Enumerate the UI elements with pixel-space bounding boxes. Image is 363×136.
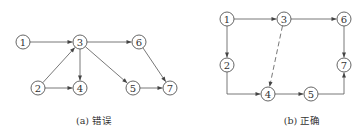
node-label: 1: [224, 14, 230, 25]
node-label: 4: [265, 89, 271, 100]
node-4: 4: [73, 81, 87, 95]
node-label: 7: [167, 83, 173, 94]
node-label: 4: [77, 83, 83, 94]
node-5: 5: [304, 87, 318, 101]
edge-3-to-4-dummy: [270, 26, 283, 87]
caption-wrong: (a) 错误: [76, 115, 112, 126]
caption-correct: (b) 正确: [284, 115, 321, 126]
node-6: 6: [337, 12, 351, 26]
node-2: 2: [220, 58, 234, 72]
node-label: 3: [281, 14, 287, 25]
edge-2-to-4: [227, 72, 261, 94]
node-7: 7: [163, 81, 177, 95]
node-3: 3: [73, 35, 87, 49]
node-1: 1: [220, 12, 234, 26]
node-4: 4: [261, 87, 275, 101]
node-label: 5: [308, 89, 314, 100]
network-diagrams: 1234567 (a) 错误 1234567 (b) 正确: [0, 0, 363, 136]
node-label: 5: [130, 83, 136, 94]
edge-2-to-3: [43, 48, 75, 83]
node-1: 1: [16, 35, 30, 49]
node-2: 2: [31, 81, 45, 95]
diagram-correct: 1234567 (b) 正确: [220, 12, 351, 126]
diagram-wrong: 1234567 (a) 错误: [16, 35, 177, 126]
node-6: 6: [132, 35, 146, 49]
node-label: 6: [341, 14, 347, 25]
node-label: 2: [224, 60, 230, 71]
node-label: 3: [77, 37, 83, 48]
node-label: 1: [20, 37, 26, 48]
node-3: 3: [277, 12, 291, 26]
edge-6-to-7: [143, 48, 166, 82]
node-7: 7: [337, 58, 351, 72]
node-label: 7: [341, 60, 347, 71]
edge-5-to-7: [318, 73, 344, 95]
node-5: 5: [126, 81, 140, 95]
edge-3-to-5: [85, 47, 127, 84]
node-label: 6: [136, 37, 142, 48]
node-label: 2: [35, 83, 41, 94]
